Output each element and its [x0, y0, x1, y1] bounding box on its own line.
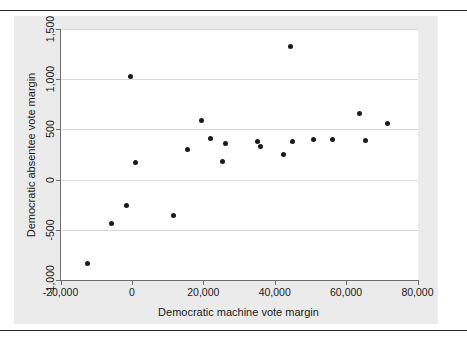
x-axis-tick [61, 280, 62, 285]
scatter-point [311, 137, 316, 142]
scatter-point [363, 138, 368, 143]
scatter-point [85, 261, 90, 266]
x-axis-tick-label: 80,000 [401, 286, 433, 298]
scatter-point [281, 152, 286, 157]
scatter-point [258, 144, 263, 149]
scatter-point [109, 221, 114, 226]
scatter-point [223, 141, 228, 146]
y-axis-title-text: Democratic absentee vote margin [25, 73, 37, 237]
scatter-point [171, 213, 176, 218]
x-axis-tick [132, 280, 133, 285]
y-gridline [61, 129, 418, 130]
scatter-point [199, 118, 204, 123]
scatter-point [290, 139, 295, 144]
y-axis-tick-label-text: 500 [44, 121, 56, 139]
y-gridline [61, 180, 418, 181]
figure-container: Democratic absentee vote margin -1,000-5… [0, 0, 467, 343]
x-axis-tick [346, 280, 347, 285]
scatter-point [330, 137, 335, 142]
y-gridline [61, 230, 418, 231]
scatter-point [255, 139, 260, 144]
x-axis-tick-label: 20,000 [187, 286, 219, 298]
y-axis-tick-label-text: -500 [44, 219, 56, 240]
scatter-point [288, 44, 293, 49]
scatter-point [208, 136, 213, 141]
scatter-point [385, 121, 390, 126]
y-gridline [61, 79, 418, 80]
scatter-point [357, 111, 362, 116]
x-axis-tick [203, 280, 204, 285]
y-axis-tick [56, 129, 61, 130]
y-gridline [61, 29, 418, 30]
x-axis-title: Democratic machine vote margin [60, 306, 418, 318]
scatter-point [220, 159, 225, 164]
figure-bottom-rule [0, 330, 467, 331]
y-axis-tick [56, 79, 61, 80]
y-axis-tick [56, 29, 61, 30]
x-axis-tick-label: 40,000 [259, 286, 291, 298]
y-axis-tick [56, 180, 61, 181]
y-axis-tick [56, 230, 61, 231]
y-axis-tick-label-text: 1,500 [44, 16, 56, 42]
x-axis-tick [418, 280, 419, 285]
figure-top-rule [0, 10, 467, 11]
x-axis-tick [275, 280, 276, 285]
x-axis-tick-label: 60,000 [330, 286, 362, 298]
x-axis-tick-label: 0 [129, 286, 135, 298]
y-axis-tick-label-text: 0 [44, 177, 56, 183]
scatter-plot-area: -1,000-50005001,0001,500-20,000020,00040… [60, 29, 418, 281]
y-axis-tick-label-text: 1,000 [44, 66, 56, 92]
scatter-point [124, 203, 129, 208]
x-axis-tick-label: -20,000 [43, 286, 79, 298]
scatter-point [133, 160, 138, 165]
scatter-point [185, 147, 190, 152]
